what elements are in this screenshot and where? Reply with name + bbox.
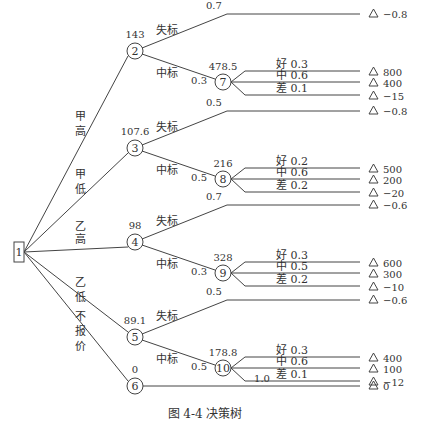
- win-label-9: 中标: [156, 257, 178, 271]
- outcome-line: [231, 357, 245, 368]
- lose-label-5: 失标: [156, 309, 178, 323]
- expected-value-7: 478.5: [209, 61, 238, 72]
- outcome-label: 中 0.6: [276, 355, 308, 368]
- outcome-line: [231, 273, 245, 286]
- payoff-outcome: −15: [383, 91, 404, 102]
- decision-tree-figure: 2143甲高失标0.7−0.8中标0.37478.5好 0.3800中 0.64…: [0, 0, 423, 430]
- payoff-outcome: 300: [383, 269, 402, 280]
- outcome-label: 中 0.5: [276, 260, 308, 273]
- branch-label-5: 乙: [75, 276, 86, 289]
- outcome-label: 差 0.1: [276, 81, 308, 95]
- win-label-7: 中标: [156, 66, 178, 80]
- win-prob-7: 0.3: [191, 75, 207, 86]
- payoff-outcome: 400: [383, 353, 402, 364]
- outcome-label: 差 0.2: [276, 178, 308, 192]
- win-label-8: 中标: [156, 163, 178, 177]
- lose-label-4: 失标: [156, 214, 178, 228]
- payoff-triangle-icon: [369, 188, 378, 196]
- lose-line-4: [142, 205, 227, 239]
- lose-line-5: [142, 300, 227, 334]
- chance-node-4-id: 4: [132, 236, 139, 249]
- branch-label-2: 高: [75, 124, 86, 138]
- figure-caption: 图 4-4 决策树: [168, 406, 243, 421]
- chance-node-2-id: 2: [132, 45, 139, 58]
- lose-prob-5: 0.5: [206, 286, 222, 297]
- payoff-triangle-icon: [369, 282, 378, 290]
- payoff-triangle-icon: [369, 67, 378, 75]
- expected-value-8: 216: [213, 158, 232, 169]
- chance-node-7-id: 7: [220, 76, 227, 89]
- expected-value-9: 328: [213, 252, 232, 263]
- payoff-outcome: 200: [383, 175, 402, 186]
- lose-line-3: [142, 111, 227, 145]
- outcome-label: 差 0.2: [276, 272, 308, 286]
- win-prob-9: 0.3: [191, 266, 207, 277]
- branch-label-4: 乙: [75, 220, 86, 233]
- payoff-outcome: 100: [383, 364, 402, 375]
- payoff-triangle-icon: [369, 78, 378, 86]
- expected-value-3: 107.6: [121, 126, 150, 137]
- probability-6: 1.0: [254, 373, 270, 384]
- outcome-line: [231, 262, 245, 273]
- outcome-line: [231, 179, 245, 192]
- chance-node-3-id: 3: [132, 142, 139, 155]
- lose-prob-4: 0.7: [206, 191, 222, 202]
- payoff-outcome: 500: [383, 164, 402, 175]
- chance-node-10-id: 10: [216, 362, 230, 375]
- payoff-outcome: −20: [383, 188, 404, 199]
- expected-value-10: 178.8: [209, 347, 238, 358]
- branch-label-2: 甲: [75, 110, 86, 123]
- payoff-6: 0: [383, 381, 389, 392]
- outcome-line: [231, 71, 245, 82]
- win-prob-8: 0.5: [191, 172, 207, 183]
- payoff-lose-3: −0.8: [383, 106, 407, 117]
- outcome-label: 中 0.6: [276, 166, 308, 179]
- payoff-lose-2: −0.8: [383, 9, 407, 20]
- payoff-triangle-icon: [369, 258, 378, 266]
- payoff-outcome: 400: [383, 78, 402, 89]
- payoff-lose-4: −0.6: [383, 200, 407, 211]
- payoff-triangle-icon: [369, 91, 378, 99]
- lose-prob-2: 0.7: [206, 0, 222, 11]
- lose-label-3: 失标: [156, 120, 178, 134]
- branch-label-6: 价: [75, 340, 86, 353]
- outcome-line: [231, 368, 245, 381]
- chance-node-6-id: 6: [132, 380, 139, 393]
- branch-label-3: 甲: [75, 168, 86, 181]
- outcome-line: [231, 168, 245, 179]
- outcome-line: [231, 82, 245, 95]
- payoff-triangle-icon: [369, 9, 378, 17]
- expected-value-5: 89.1: [124, 315, 146, 326]
- branch-line-4: [24, 247, 128, 252]
- payoff-lose-5: −0.6: [383, 295, 407, 306]
- expected-value-2: 143: [125, 29, 144, 40]
- branch-label-4: 高: [75, 232, 86, 246]
- payoff-outcome: −10: [383, 282, 404, 293]
- decision-node-id: 1: [16, 246, 23, 259]
- payoff-triangle-icon: [369, 269, 378, 277]
- chance-node-9-id: 9: [220, 267, 227, 280]
- payoff-outcome: 800: [383, 67, 402, 78]
- payoff-triangle-icon: [369, 106, 378, 114]
- lose-label-2: 失标: [156, 23, 178, 37]
- win-label-10: 中标: [156, 352, 178, 366]
- payoff-triangle-icon: [369, 364, 378, 372]
- branch-label-6: 报: [75, 324, 86, 338]
- branch-label-5: 低: [75, 291, 86, 304]
- payoff-outcome: 600: [383, 258, 402, 269]
- lose-prob-3: 0.5: [206, 97, 222, 108]
- decision-tree: 2143甲高失标0.7−0.8中标0.37478.5好 0.3800中 0.64…: [0, 0, 423, 430]
- payoff-triangle-icon: [369, 175, 378, 183]
- chance-node-8-id: 8: [220, 173, 227, 186]
- payoff-triangle-icon: [369, 353, 378, 361]
- expected-value-4: 98: [129, 220, 142, 231]
- payoff-triangle-icon: [369, 200, 378, 208]
- outcome-label: 中 0.6: [276, 69, 308, 82]
- branch-label-3: 低: [75, 183, 86, 196]
- win-prob-10: 0.5: [191, 361, 207, 372]
- chance-node-5-id: 5: [132, 331, 139, 344]
- payoff-triangle-icon: [369, 164, 378, 172]
- payoff-triangle-icon: [369, 295, 378, 303]
- branch-label-6: 不: [75, 310, 86, 323]
- lose-line-2: [142, 14, 227, 48]
